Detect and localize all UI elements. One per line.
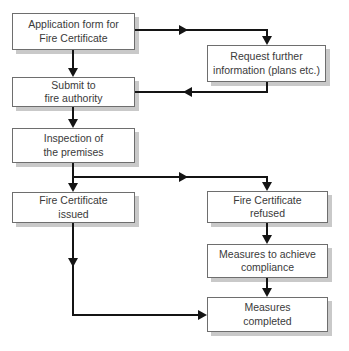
arrowhead-down-icon <box>68 183 78 192</box>
arrowhead-right-icon <box>198 310 207 320</box>
node-label-line: issued <box>58 208 88 222</box>
connector-inspection-to-refused <box>72 176 268 178</box>
node-measures-completed: Measures completed <box>207 297 328 332</box>
connector-issued-to-completed <box>72 314 198 316</box>
connector-application-to-submit <box>72 50 74 69</box>
node-label-line: Request further <box>230 50 302 64</box>
arrowhead-down-icon <box>68 68 78 77</box>
arrowhead-left-icon <box>183 87 192 97</box>
node-label-line: Inspection of <box>44 132 104 146</box>
node-label-line: compliance <box>241 261 294 275</box>
arrowhead-down-icon <box>262 182 272 191</box>
node-submit-fire-authority: Submit to fire authority <box>12 77 135 107</box>
node-label-line: refused <box>250 207 285 221</box>
node-label-line: completed <box>243 315 291 329</box>
node-inspection-premises: Inspection of the premises <box>12 128 135 163</box>
node-label-line: Fire Certificate <box>39 194 107 208</box>
node-label-line: Fire Certificate <box>233 194 301 208</box>
flowchart-canvas: Application form for Fire Certificate Re… <box>0 0 349 351</box>
arrowhead-down-icon <box>68 258 78 267</box>
node-label-line: fire authority <box>45 92 103 106</box>
node-label-line: information (plans etc.) <box>213 64 320 78</box>
arrowhead-down-icon <box>262 36 272 45</box>
connector-request-to-submit <box>135 91 268 93</box>
node-label-line: Measures to achieve <box>219 248 316 262</box>
node-label-line: Fire Certificate <box>39 32 107 46</box>
node-request-further-info: Request further information (plans etc.) <box>207 45 326 82</box>
node-label-line: Application form for <box>28 18 118 32</box>
arrowhead-down-icon <box>262 235 272 244</box>
node-label-line: the premises <box>43 146 103 160</box>
node-application-form: Application form for Fire Certificate <box>12 13 135 50</box>
arrowhead-down-icon <box>262 288 272 297</box>
connector-inspection-to-issued <box>72 163 74 184</box>
node-certificate-issued: Fire Certificate issued <box>12 192 135 223</box>
connector-application-to-request <box>135 29 268 31</box>
node-label-line: Measures <box>244 301 290 315</box>
node-label-line: Submit to <box>51 79 95 93</box>
node-certificate-refused: Fire Certificate refused <box>207 191 328 223</box>
node-measures-compliance: Measures to achieve compliance <box>207 244 328 278</box>
arrowhead-right-icon <box>179 25 188 35</box>
connector-issued-to-completed-drop <box>72 223 74 316</box>
arrowhead-down-icon <box>68 119 78 128</box>
arrowhead-right-icon <box>179 172 188 182</box>
